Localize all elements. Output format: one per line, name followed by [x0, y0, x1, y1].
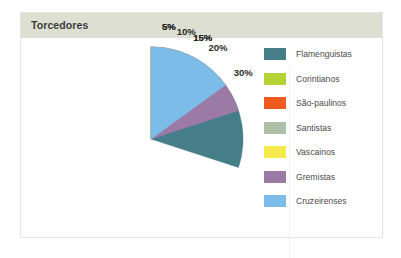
pie-data-label: 5%: [162, 21, 176, 32]
legend-item[interactable]: Santistas: [264, 116, 372, 141]
legend-color-swatch: [264, 48, 286, 60]
legend-item[interactable]: Flamenguistas: [264, 42, 372, 67]
legend-item-label: Flamenguistas: [296, 49, 352, 59]
legend-item[interactable]: Gremistas: [264, 165, 372, 190]
pie-data-label: 30%: [234, 66, 253, 77]
legend-item[interactable]: Corintianos: [264, 67, 372, 92]
legend-color-swatch: [264, 171, 286, 183]
legend-item[interactable]: Vascainos: [264, 140, 372, 165]
legend-item-label: Corintianos: [296, 74, 339, 84]
legend-color-swatch: [264, 146, 286, 158]
legend-color-swatch: [264, 195, 286, 207]
legend-item[interactable]: São-paulinos: [264, 91, 372, 116]
legend-item-label: Cruzeirenses: [296, 196, 347, 206]
chart-card: Torcedores 30%15%5%10%5%20%15% Flamengui…: [20, 12, 383, 238]
legend-color-swatch: [264, 97, 286, 109]
page-title: Torcedores: [31, 19, 88, 31]
legend-color-swatch: [264, 73, 286, 85]
legend-item-label: Vascainos: [296, 147, 335, 157]
legend-item-label: Santistas: [296, 123, 331, 133]
chart-legend: FlamenguistasCorintianosSão-paulinosSant…: [264, 42, 372, 214]
legend-item-label: São-paulinos: [296, 98, 346, 108]
pie-data-label: 15%: [193, 32, 212, 43]
pie-chart: 30%15%5%10%5%20%15%: [29, 44, 274, 234]
plot-area: 30%15%5%10%5%20%15% FlamenguistasCorinti…: [21, 38, 382, 238]
legend-item-label: Gremistas: [296, 172, 335, 182]
pie-slice-group: [151, 47, 243, 167]
legend-color-swatch: [264, 122, 286, 134]
legend-item[interactable]: Cruzeirenses: [264, 189, 372, 214]
